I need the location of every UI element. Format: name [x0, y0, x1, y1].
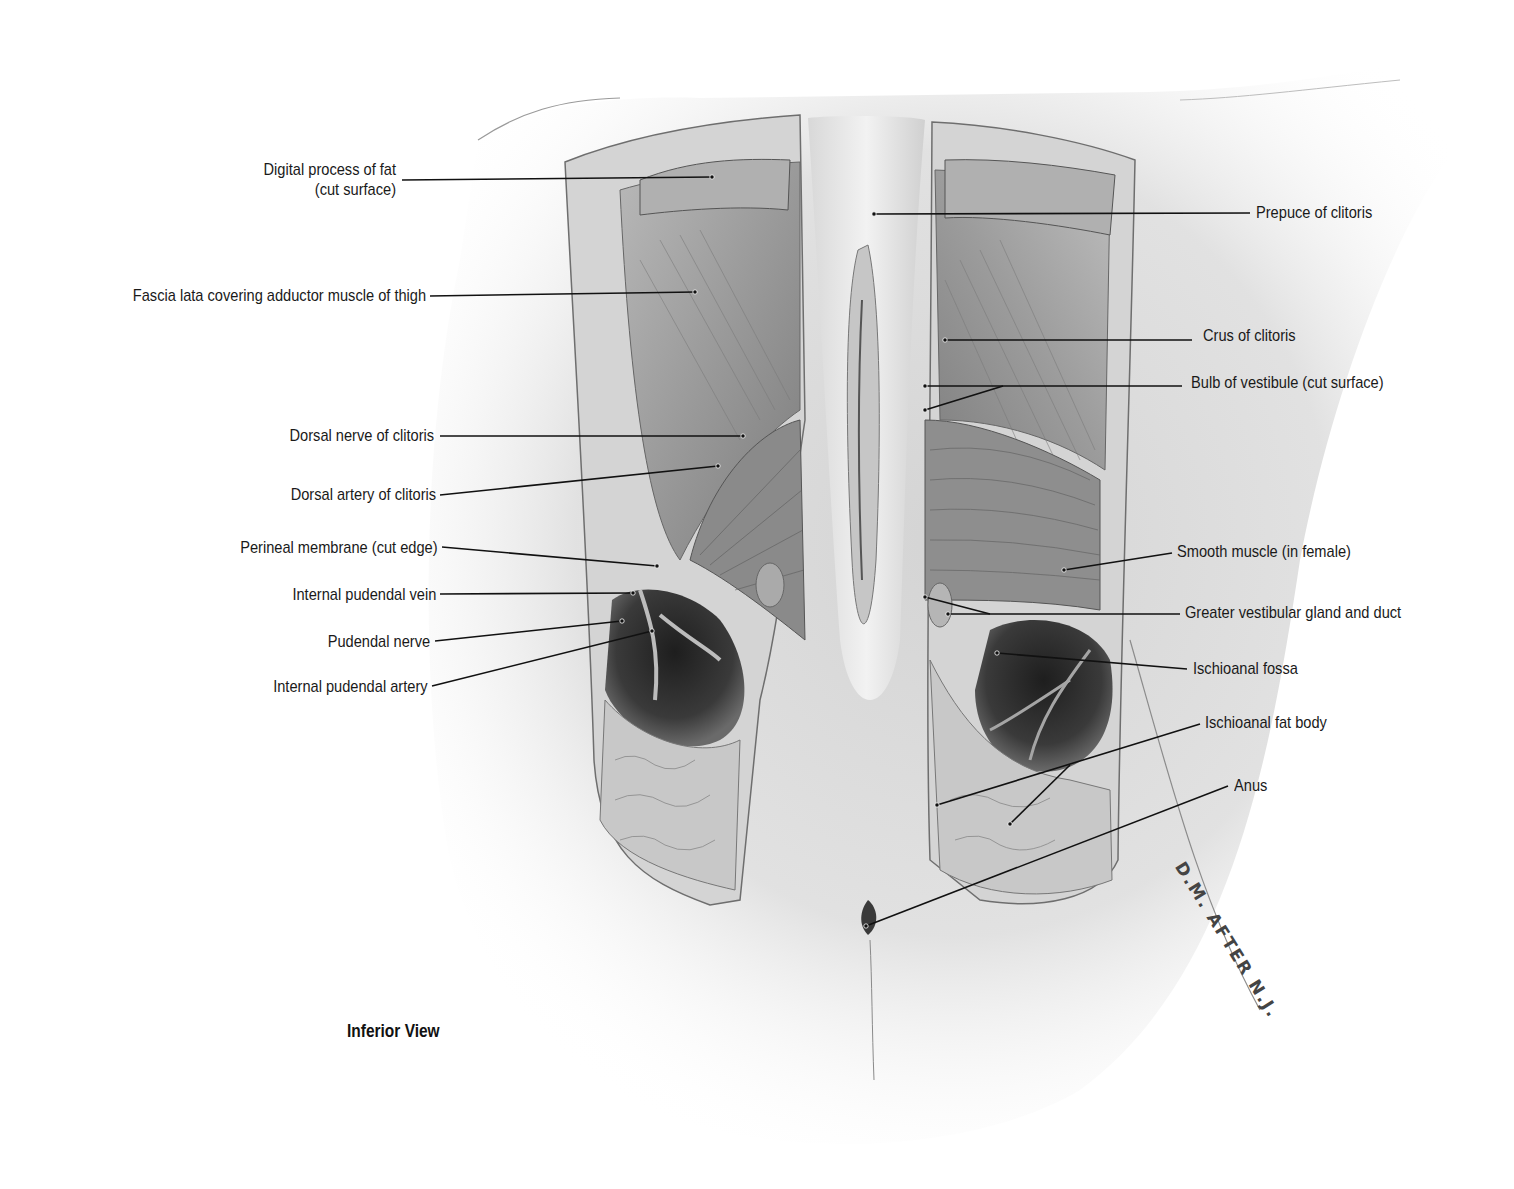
label-pudendal-nerve: Pudendal nerve	[328, 632, 430, 652]
label-prepuce-of-clitoris: Prepuce of clitoris	[1256, 203, 1372, 223]
label-ischioanal-fat-body: Ischioanal fat body	[1205, 713, 1327, 733]
label-internal-pudendal-artery: Internal pudendal artery	[274, 677, 428, 697]
label-fascia-lata: Fascia lata covering adductor muscle of …	[133, 286, 426, 306]
label-line2: (cut surface)	[264, 180, 396, 200]
label-internal-pudendal-vein: Internal pudendal vein	[292, 585, 436, 605]
label-digital-process-of-fat: Digital process of fat (cut surface)	[264, 160, 396, 200]
label-anus: Anus	[1234, 776, 1267, 796]
label-bulb-of-vestibule: Bulb of vestibule (cut surface)	[1191, 373, 1384, 393]
label-ischioanal-fossa: Ischioanal fossa	[1193, 659, 1298, 679]
view-caption: Inferior View	[347, 1021, 440, 1042]
right-dissection	[925, 122, 1135, 904]
label-crus-of-clitoris: Crus of clitoris	[1203, 326, 1296, 346]
label-line1: Digital process of fat	[264, 160, 396, 180]
label-dorsal-artery-of-clitoris: Dorsal artery of clitoris	[291, 485, 436, 505]
anatomical-illustration	[0, 0, 1514, 1189]
label-smooth-muscle: Smooth muscle (in female)	[1177, 542, 1351, 562]
label-perineal-membrane: Perineal membrane (cut edge)	[241, 538, 438, 558]
label-greater-vestibular-gland: Greater vestibular gland and duct	[1185, 603, 1401, 623]
label-dorsal-nerve-of-clitoris: Dorsal nerve of clitoris	[289, 426, 434, 446]
